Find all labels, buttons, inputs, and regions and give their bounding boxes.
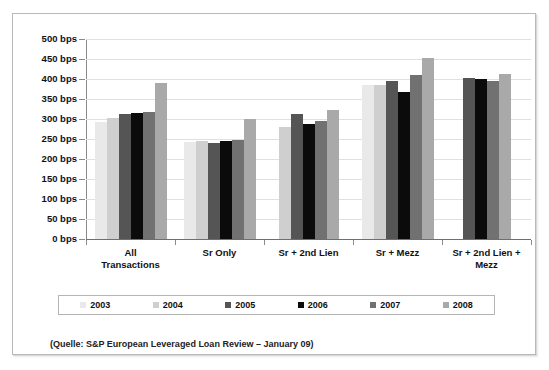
bar-group: [353, 39, 442, 239]
bar-group: [175, 39, 264, 239]
legend-swatch-icon: [153, 302, 159, 308]
y-axis-label: 400 bps: [13, 74, 77, 84]
chart-legend: 200320042005200620072008: [58, 295, 495, 315]
x-axis-tick: [353, 240, 354, 245]
legend-label: 2004: [163, 300, 183, 310]
bar: [327, 110, 339, 239]
y-axis-tick: [79, 39, 85, 40]
legend-swatch-icon: [370, 302, 376, 308]
bar: [107, 118, 119, 239]
bar-group: [86, 39, 175, 239]
bar: [131, 113, 143, 239]
bar-group: [442, 39, 531, 239]
legend-label: 2007: [380, 300, 400, 310]
bar: [279, 127, 291, 239]
legend-item[interactable]: 2005: [204, 300, 277, 310]
y-axis-tick: [79, 179, 85, 180]
y-axis-label: 150 bps: [13, 174, 77, 184]
y-axis-tick: [79, 99, 85, 100]
bar: [220, 141, 232, 239]
legend-item[interactable]: 2004: [132, 300, 205, 310]
y-axis-tick: [79, 159, 85, 160]
y-axis-label: 250 bps: [13, 134, 77, 144]
y-axis-tick: [79, 199, 85, 200]
x-axis-tick: [442, 240, 443, 245]
legend-swatch-icon: [225, 302, 231, 308]
bar: [232, 140, 244, 239]
y-axis-tick: [79, 59, 85, 60]
legend-item[interactable]: 2007: [349, 300, 422, 310]
legend-swatch-icon: [443, 302, 449, 308]
bar: [463, 78, 475, 239]
bar: [196, 141, 208, 239]
y-axis-tick: [79, 139, 85, 140]
legend-swatch-icon: [80, 302, 86, 308]
x-axis-tick: [86, 240, 87, 245]
bar: [315, 121, 327, 239]
bar: [487, 81, 499, 239]
x-axis-label: Sr Only: [175, 247, 264, 259]
y-axis-tick: [79, 239, 85, 240]
legend-item[interactable]: 2008: [422, 300, 495, 310]
y-axis-tick: [79, 79, 85, 80]
bar: [398, 92, 410, 239]
bar: [95, 122, 107, 239]
source-note: (Quelle: S&P European Leveraged Loan Rev…: [50, 339, 313, 349]
bar: [410, 75, 422, 239]
bar: [475, 79, 487, 239]
bar: [499, 74, 511, 239]
bar: [244, 119, 256, 239]
y-axis-label: 50 bps: [13, 214, 77, 224]
bar-group: [264, 39, 353, 239]
x-axis-label-line: All: [86, 247, 175, 259]
chart-frame: 0 bps50 bps100 bps150 bps200 bps250 bps3…: [12, 13, 536, 355]
legend-item[interactable]: 2006: [277, 300, 350, 310]
bar: [208, 143, 220, 239]
y-axis-tick: [79, 119, 85, 120]
x-axis-label-line: Sr Only: [175, 247, 264, 259]
legend-label: 2003: [90, 300, 110, 310]
bar: [386, 81, 398, 239]
x-axis-label-line: Transactions: [86, 259, 175, 271]
y-axis-label: 200 bps: [13, 154, 77, 164]
x-axis-tick: [531, 240, 532, 245]
legend-swatch-icon: [298, 302, 304, 308]
bar: [184, 142, 196, 239]
bar: [303, 124, 315, 239]
bar: [155, 83, 167, 239]
x-axis-label-line: Sr + 2nd Lien: [264, 247, 353, 259]
y-axis-label: 350 bps: [13, 94, 77, 104]
bar: [374, 85, 386, 239]
y-axis-label: 0 bps: [13, 234, 77, 244]
bar: [422, 58, 434, 239]
y-axis-label: 300 bps: [13, 114, 77, 124]
gridline: [86, 239, 531, 240]
x-axis-label: Sr + 2nd Lien: [264, 247, 353, 259]
legend-label: 2006: [308, 300, 328, 310]
x-axis-label-line: Sr + 2nd Lien +: [442, 247, 531, 259]
legend-item[interactable]: 2003: [59, 300, 132, 310]
x-axis-label: Sr + Mezz: [353, 247, 442, 259]
bar: [291, 114, 303, 239]
x-axis-label-line: Sr + Mezz: [353, 247, 442, 259]
x-axis-tick: [175, 240, 176, 245]
bar: [362, 85, 374, 239]
y-axis-label: 100 bps: [13, 194, 77, 204]
x-axis-tick: [264, 240, 265, 245]
plot-area: [86, 39, 531, 239]
x-axis-label: Sr + 2nd Lien +Mezz: [442, 247, 531, 271]
x-axis-label: AllTransactions: [86, 247, 175, 271]
y-axis-tick: [79, 219, 85, 220]
legend-label: 2008: [453, 300, 473, 310]
bar: [143, 112, 155, 239]
bar: [119, 114, 131, 239]
y-axis-label: 450 bps: [13, 54, 77, 64]
x-axis-label-line: Mezz: [442, 259, 531, 271]
y-axis-label: 500 bps: [13, 34, 77, 44]
legend-label: 2005: [235, 300, 255, 310]
